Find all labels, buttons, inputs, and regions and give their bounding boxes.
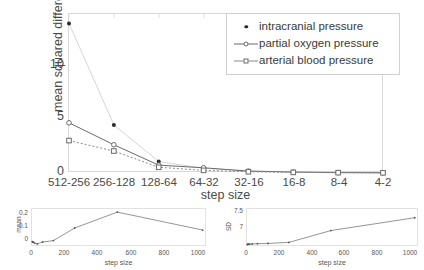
main-chart: mean squared difference 10 5 0 512-256 2… bbox=[0, 0, 424, 200]
legend-item-arterial-blood-pressure[interactable]: arterial blood pressure bbox=[233, 52, 393, 69]
subplot-sd-xtick: 800 bbox=[372, 249, 383, 256]
subplot-sd-xtick: 600 bbox=[339, 249, 350, 256]
subplot-sd-xtick: 0 bbox=[244, 249, 248, 256]
main-x-axis-label: step size bbox=[68, 188, 383, 202]
subplot-mean-plot-area bbox=[31, 208, 206, 246]
subplot-mean-x-axis-label: step size bbox=[31, 259, 206, 266]
subplot-mean-xtick: 600 bbox=[126, 249, 137, 256]
main-xtick: 16-8 bbox=[282, 176, 305, 188]
subplot-mean-series-layer bbox=[32, 209, 207, 247]
subplot-sd-ytick: 7 bbox=[226, 223, 243, 230]
main-ytick-5: 5 bbox=[57, 109, 64, 123]
subplot-sd-ytick: 7.5 bbox=[226, 207, 243, 214]
subplot-mean-ytick: 0.1 bbox=[12, 222, 28, 229]
subplot-sd-xtick: 1000 bbox=[403, 249, 417, 256]
legend-marker-square-icon bbox=[233, 55, 259, 67]
subplot-sd: SD 7.5 7 0 200 400 600 800 1000 step siz… bbox=[212, 205, 424, 270]
main-xtick: 4-2 bbox=[375, 176, 392, 188]
subplot-mean-ytick: 0 bbox=[12, 235, 28, 242]
main-xtick: 128-64 bbox=[141, 176, 177, 188]
subplot-mean-xtick: 800 bbox=[159, 249, 170, 256]
legend-label: intracranial pressure bbox=[259, 21, 363, 33]
subplot-mean-xtick: 1000 bbox=[191, 249, 205, 256]
legend-marker-circle-icon bbox=[233, 38, 259, 50]
legend-item-intracranial-pressure[interactable]: intracranial pressure bbox=[233, 18, 393, 35]
legend-label: arterial blood pressure bbox=[259, 55, 373, 67]
subplot-sd-x-axis-label: step size bbox=[246, 259, 418, 266]
subplot-sd-series-layer bbox=[247, 209, 419, 247]
main-xtick: 256-128 bbox=[93, 176, 135, 188]
main-ytick-10: 10 bbox=[50, 57, 64, 71]
main-xtick: 32-16 bbox=[234, 176, 263, 188]
legend-label: partial oxygen pressure bbox=[259, 38, 379, 50]
main-xtick: 8-4 bbox=[331, 176, 348, 188]
subplot-mean-ytick: 0.2 bbox=[12, 209, 28, 216]
legend-marker-dot-icon bbox=[233, 21, 259, 33]
subplot-mean-xtick: 0 bbox=[29, 249, 33, 256]
subplot-mean-xtick: 400 bbox=[92, 249, 103, 256]
figure-root: mean squared difference 10 5 0 512-256 2… bbox=[0, 0, 424, 270]
subplot-sd-xtick: 200 bbox=[274, 249, 285, 256]
subplot-sd-plot-area bbox=[246, 208, 418, 246]
legend-item-partial-oxygen-pressure[interactable]: partial oxygen pressure bbox=[233, 35, 393, 52]
subplot-mean-xtick: 200 bbox=[59, 249, 70, 256]
subplot-mean: mean 0.2 0.1 0 0 200 400 600 800 1000 st… bbox=[0, 205, 212, 270]
main-xtick: 512-256 bbox=[48, 176, 90, 188]
subplot-sd-xtick: 400 bbox=[307, 249, 318, 256]
main-xtick: 64-32 bbox=[189, 176, 218, 188]
legend: intracranial pressure partial oxygen pre… bbox=[226, 13, 400, 75]
